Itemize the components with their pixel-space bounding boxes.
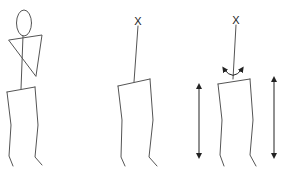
figure-rotation: X: [199, 14, 274, 166]
head-marker-x: X: [232, 14, 240, 26]
figure-head-marker: X: [118, 15, 157, 166]
left-leg: [218, 84, 224, 166]
spine: [21, 36, 23, 89]
spine-line: [134, 26, 138, 82]
pelvis: [218, 79, 250, 84]
head: [17, 10, 32, 36]
right-leg: [250, 79, 256, 166]
right-leg: [35, 87, 42, 165]
spine-line: [233, 25, 236, 79]
stick-figure-diagram: X X: [0, 0, 281, 171]
right-leg: [149, 79, 157, 166]
left-leg: [118, 86, 125, 166]
head-marker-x: X: [134, 15, 142, 27]
left-leg: [7, 92, 13, 166]
arms-triangle: [9, 35, 42, 76]
figure-full: [7, 10, 42, 166]
diagram-canvas: X X: [0, 0, 281, 171]
